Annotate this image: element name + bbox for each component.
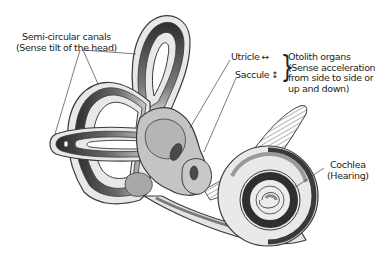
label-utricle-text: Utricle (231, 51, 259, 62)
label-otolith-organs: Otolith organs (Sense acceleration from … (288, 52, 375, 94)
label-utricle: Utricle↔ (231, 52, 269, 63)
label-semicircular-canals-function: (Sense tilt of the head) (16, 43, 117, 54)
leader-utricle (190, 60, 230, 128)
label-cochlea-name: Cochlea (327, 160, 369, 171)
label-saccule: Saccule↕ (235, 70, 279, 81)
label-saccule-text: Saccule (235, 69, 269, 80)
label-otolith-organs-function-2: from side to side or (288, 73, 375, 84)
leader-semicircular-2 (83, 50, 98, 84)
leader-saccule (204, 78, 236, 152)
horizontal-arrow-icon: ↔ (261, 52, 268, 62)
hatched-tissue-upper (252, 105, 307, 152)
saccule (182, 159, 212, 195)
label-cochlea-function: (Hearing) (327, 171, 369, 182)
label-otolith-organs-function-3: up and down) (288, 84, 375, 95)
label-otolith-organs-name: Otolith organs (288, 52, 375, 63)
label-semicircular-canals-name: Semi-circular canals (16, 32, 117, 43)
vertical-arrow-icon: ↕ (271, 70, 278, 80)
label-semicircular-canals: Semi-circular canals (Sense tilt of the … (16, 32, 117, 53)
cochlea (218, 146, 318, 246)
label-cochlea: Cochlea (Hearing) (327, 160, 369, 181)
